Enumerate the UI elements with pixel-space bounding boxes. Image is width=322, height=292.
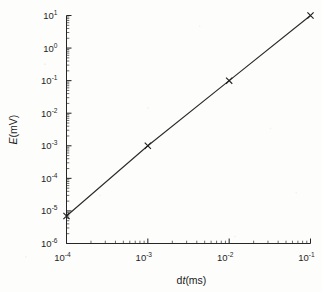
svg-text:10-4: 10-4 [54,251,71,263]
svg-text:10-1: 10-1 [41,74,58,86]
data-series-line [67,16,311,216]
x-axis-tick-labels: 10-410-310-210-1 [54,251,315,263]
svg-text:100: 100 [43,42,58,54]
svg-text:10-6: 10-6 [41,237,58,249]
y-axis-title: E(mV) [7,115,19,145]
x-axis-title: dt(ms) [177,274,207,286]
log-log-chart: 10-410-310-210-1 10110010-110-210-310-41… [0,0,322,292]
svg-text:10-3: 10-3 [41,139,58,151]
figure-canvas: 10-410-310-210-1 10110010-110-210-310-41… [0,0,322,292]
svg-text:10-4: 10-4 [41,172,58,184]
svg-text:10-1: 10-1 [298,251,315,263]
svg-text:10-2: 10-2 [41,107,58,119]
x-axis-major-ticks [67,239,311,244]
y-axis-tick-labels: 10110010-110-210-310-410-510-6 [41,9,58,249]
svg-text:101: 101 [43,9,58,21]
svg-text:10-2: 10-2 [217,251,234,263]
svg-text:10-3: 10-3 [136,251,153,263]
svg-text:10-5: 10-5 [41,204,58,216]
